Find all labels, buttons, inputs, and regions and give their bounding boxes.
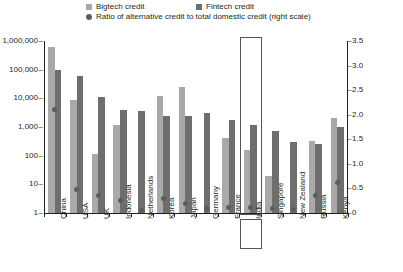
y-axis-right-tick: –0.5: [352, 184, 392, 192]
x-axis-label-uk: UK: [102, 208, 111, 219]
bar-bigtech-russia: [309, 141, 316, 213]
chart-container: Bigtech credit Fintech credit Ratio of a…: [0, 0, 403, 272]
legend-swatch-fintech-icon: [196, 4, 202, 10]
x-axis-label-indonesia: Indonesia: [124, 184, 133, 219]
bar-fintech-usa: [77, 76, 84, 213]
ratio-dot-singapore: [270, 206, 275, 211]
x-axis-label-singapore: Singapore: [276, 183, 285, 219]
y-axis-right-tick: –1.5: [352, 135, 392, 143]
y-axis-right-tick: –3.5: [352, 37, 392, 45]
x-axis-label-netherlands: Netherlands: [146, 176, 155, 219]
bar-bigtech-france: [222, 138, 229, 213]
x-axis-label-usa: USA: [81, 203, 90, 219]
ratio-dot-kenya: [335, 180, 340, 185]
legend-dot-ratio-icon: [86, 14, 92, 20]
y-axis-left-tick: 1–: [0, 209, 38, 217]
bar-fintech-china: [55, 70, 62, 213]
legend-item-ratio: Ratio of alternative credit to total dom…: [86, 12, 311, 21]
y-axis-left-tick: 100–: [0, 152, 38, 160]
x-axis-label-china: China: [59, 198, 68, 219]
bar-fintech-germany: [204, 113, 211, 213]
bar-bigtech-china: [48, 47, 55, 213]
y-axis-left-tick: 100,000–: [0, 66, 38, 74]
y-axis-right-tick: –2.0: [352, 111, 392, 119]
x-axis-label-korea: Korea: [167, 198, 176, 219]
bar-fintech-netherlands: [138, 111, 145, 213]
ratio-dot-indonesia: [118, 198, 123, 203]
y-axis-right-tick: –1.0: [352, 160, 392, 168]
x-axis-label-japan: Japan: [189, 197, 198, 219]
bar-fintech-new-zealand: [290, 142, 297, 213]
ratio-dot-new-zealand: [291, 207, 296, 212]
ratio-dot-korea: [161, 196, 166, 201]
legend-label-bigtech: Bigtech credit: [96, 2, 144, 11]
y-axis-left-tick: 1,000–: [0, 123, 38, 131]
y-axis-left-tick: 10,000–: [0, 94, 38, 102]
x-axis-label-kenya: Kenya: [341, 196, 350, 219]
x-axis-label-germany: Germany: [211, 186, 220, 219]
legend-item-bigtech: Bigtech credit: [86, 2, 144, 11]
legend-swatch-bigtech-icon: [86, 4, 92, 10]
y-axis-left-tick: 1,000,000–: [0, 37, 38, 45]
chart-legend: Bigtech credit Fintech credit Ratio of a…: [0, 0, 403, 26]
highlight-box-india: [240, 37, 262, 215]
x-axis-tick: [44, 213, 45, 217]
y-axis-right-tick: –0: [352, 209, 392, 217]
bar-bigtech-kenya: [331, 118, 338, 213]
bar-bigtech-uk: [92, 154, 99, 213]
legend-item-fintech: Fintech credit: [196, 2, 254, 11]
x-axis-label-russia: Russia: [319, 195, 328, 219]
x-axis-label-new-zealand: New Zealand: [298, 172, 307, 219]
ratio-dot-japan: [183, 201, 188, 206]
ratio-dot-france: [226, 205, 231, 210]
bar-bigtech-japan: [179, 87, 186, 213]
legend-label-fintech: Fintech credit: [206, 2, 254, 11]
y-axis-left-tick: 10–: [0, 180, 38, 188]
ratio-dot-germany: [204, 206, 209, 211]
y-axis-right-tick: –3.0: [352, 62, 392, 70]
y-axis-right-tick: –2.5: [352, 86, 392, 94]
legend-label-ratio: Ratio of alternative credit to total dom…: [96, 12, 311, 21]
bar-bigtech-usa: [70, 100, 77, 213]
highlight-label-box-india: [240, 219, 262, 249]
